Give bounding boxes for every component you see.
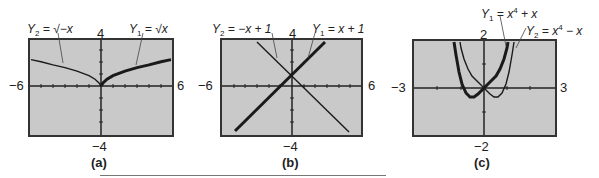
ymin-label: −2 <box>474 140 489 154</box>
xmin-label: −6 <box>9 79 24 93</box>
xmin-label: −3 <box>391 81 406 95</box>
ymin-label: −4 <box>92 140 107 154</box>
ymax-label: 4 <box>97 27 104 41</box>
equation-label-y1: Y1 = √x <box>129 23 168 40</box>
ymin-label: −4 <box>283 140 298 154</box>
xmax-label: 3 <box>560 81 567 95</box>
equation-label-y2: Y2 = x4 − x <box>526 21 582 42</box>
graph-panel-c: Y1 = x4 + x Y2 = x4 − x 2 −3 3 −2 (c) <box>400 0 599 170</box>
graph-panel-a: Y2 = √−x Y1 = √x 4 −6 6 −4 (a) <box>0 0 200 170</box>
xmax-label: 6 <box>368 79 375 93</box>
xmax-label: 6 <box>177 79 184 93</box>
panel-caption-c: (c) <box>474 156 490 170</box>
panel-caption-a: (a) <box>91 156 107 170</box>
divider-rule <box>100 175 386 176</box>
panel-caption-b: (b) <box>282 156 299 170</box>
graph-panel-b: Y2 = −x + 1 Y1 = x + 1 4 −6 6 −4 (b) <box>195 0 400 170</box>
equation-label-y2: Y2 = √−x <box>27 23 73 40</box>
equation-label-y2: Y2 = −x + 1 <box>212 23 272 40</box>
xmin-label: −6 <box>198 79 213 93</box>
equation-label-y1: Y1 = x + 1 <box>312 23 365 40</box>
ymax-label: 2 <box>480 28 487 42</box>
ymax-label: 4 <box>289 27 296 41</box>
